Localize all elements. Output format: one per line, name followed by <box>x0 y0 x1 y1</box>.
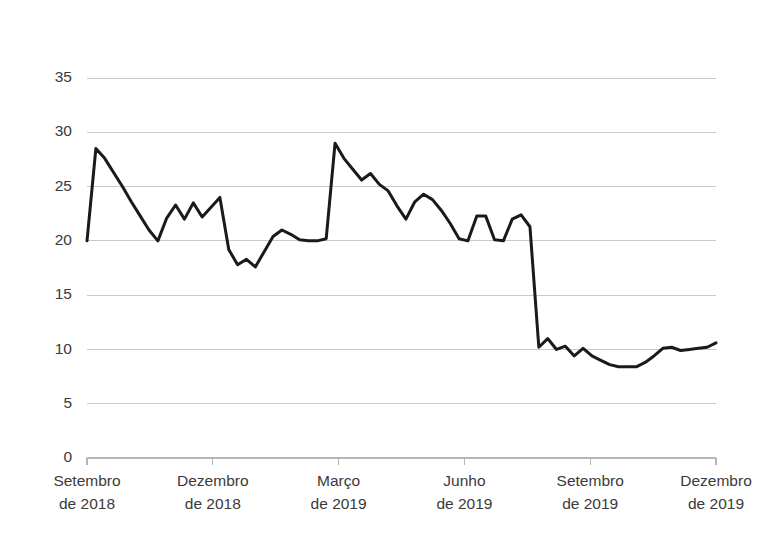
x-tick-label-1: Dezembro <box>177 472 249 489</box>
y-tick-labels: 05101520253035 <box>55 68 73 465</box>
data-series <box>87 143 716 367</box>
line-chart: 05101520253035 Setembrode 2018Dezembrode… <box>0 0 761 535</box>
gridlines <box>87 78 716 404</box>
y-tick-label-20: 20 <box>55 231 73 248</box>
x-tick-sublabel-4: de 2019 <box>562 495 618 512</box>
x-tick-label-3: Junho <box>443 472 485 489</box>
y-tick-label-5: 5 <box>63 394 72 411</box>
y-tick-label-35: 35 <box>55 68 72 85</box>
x-tick-label-4: Setembro <box>557 472 624 489</box>
x-tick-sublabel-0: de 2018 <box>59 495 115 512</box>
axis-lines <box>87 458 716 465</box>
x-tick-sublabel-5: de 2019 <box>688 495 744 512</box>
x-tick-sublabel-1: de 2018 <box>185 495 241 512</box>
x-tick-sublabel-3: de 2019 <box>436 495 492 512</box>
chart-canvas: 05101520253035 Setembrode 2018Dezembrode… <box>0 0 761 535</box>
y-tick-label-15: 15 <box>55 285 72 302</box>
x-tick-sublabel-2: de 2019 <box>311 495 367 512</box>
y-tick-label-0: 0 <box>63 448 72 465</box>
y-tick-label-25: 25 <box>55 177 72 194</box>
x-tick-label-0: Setembro <box>53 472 120 489</box>
y-tick-label-10: 10 <box>55 340 73 357</box>
x-tick-label-2: Março <box>317 472 360 489</box>
y-tick-label-30: 30 <box>55 122 73 139</box>
x-tick-labels: Setembrode 2018Dezembrode 2018Marçode 20… <box>53 472 751 512</box>
x-tick-label-5: Dezembro <box>680 472 752 489</box>
series-line-0 <box>87 143 716 367</box>
